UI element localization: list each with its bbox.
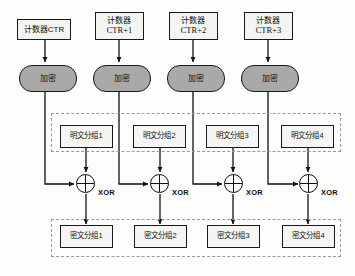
ciphertext-block-3[interactable]: 密文分组3	[207, 225, 260, 248]
xor-operator-4[interactable]	[299, 174, 318, 193]
ciphertext-label-1: 密文分组1	[70, 232, 102, 241]
counter-label-4-line1: 计数器	[256, 16, 280, 25]
plaintext-block-3[interactable]: 明文分组3	[206, 125, 259, 148]
ciphertext-block-4[interactable]: 密文分组4	[282, 225, 335, 248]
counter-label-4-line2: CTR+3	[256, 26, 282, 36]
counter-label-1-line1: 计数器CTR	[24, 25, 64, 34]
plaintext-label-1: 明文分组1	[70, 132, 102, 141]
encrypt-label-4: 加密	[262, 74, 278, 83]
ctr-mode-encryption-diagram: 计数器CTR 计数器 CTR+1 计数器 CTR+2 计数器 CTR+3 加密 …	[0, 0, 355, 276]
encrypt-block-4[interactable]: 加密	[241, 65, 299, 92]
encrypt-block-2[interactable]: 加密	[93, 65, 151, 92]
counter-box-1[interactable]: 计数器CTR	[17, 19, 71, 40]
plaintext-label-3: 明文分组3	[216, 132, 248, 141]
counter-box-2[interactable]: 计数器 CTR+1	[95, 12, 144, 40]
ciphertext-block-1[interactable]: 密文分组1	[60, 225, 113, 248]
plaintext-block-2[interactable]: 明文分组2	[133, 125, 186, 148]
plaintext-block-1[interactable]: 明文分组1	[60, 125, 113, 148]
counter-label-2-line2: CTR+1	[107, 26, 133, 36]
plaintext-label-2: 明文分组2	[143, 132, 175, 141]
counter-label-3-line1: 计数器	[181, 16, 205, 25]
xor-label-2: XOR	[172, 188, 189, 197]
encrypt-block-1[interactable]: 加密	[19, 65, 77, 92]
counter-label-3-line2: CTR+2	[181, 26, 207, 36]
ciphertext-block-2[interactable]: 密文分组2	[134, 225, 187, 248]
xor-label-4: XOR	[321, 188, 338, 197]
ciphertext-label-4: 密文分组4	[292, 232, 324, 241]
xor-operator-1[interactable]	[76, 174, 95, 193]
counter-box-3[interactable]: 计数器 CTR+2	[169, 12, 218, 40]
plaintext-block-4[interactable]: 明文分组4	[281, 125, 334, 148]
plaintext-label-4: 明文分组4	[291, 132, 323, 141]
encrypt-label-2: 加密	[114, 74, 130, 83]
xor-label-3: XOR	[246, 188, 263, 197]
ciphertext-label-2: 密文分组2	[144, 232, 176, 241]
xor-label-1: XOR	[98, 188, 115, 197]
xor-operator-2[interactable]	[150, 174, 169, 193]
counter-box-4[interactable]: 计数器 CTR+3	[244, 12, 293, 40]
counter-label-2-line1: 计数器	[107, 16, 131, 25]
encrypt-block-3[interactable]: 加密	[167, 65, 225, 92]
xor-operator-3[interactable]	[224, 174, 243, 193]
encrypt-label-1: 加密	[40, 74, 56, 83]
encrypt-label-3: 加密	[188, 74, 204, 83]
ciphertext-label-3: 密文分组3	[217, 232, 249, 241]
